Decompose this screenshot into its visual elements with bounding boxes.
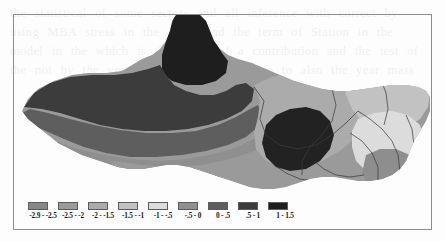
legend-label-row: -2.9 - -2.5 -2.5 - -2 -2 - -1.5 -1.5 - -… xyxy=(28,211,302,220)
region-northern-protrusion xyxy=(162,15,228,85)
legend-label-2: -2 - -1.5 xyxy=(88,211,117,220)
legend-label-5: -.5 - 0 xyxy=(178,211,207,220)
legend-label-4: -1 - -.5 xyxy=(148,211,177,220)
legend-swatch-5 xyxy=(178,202,198,210)
legend-label-7: .5 - 1 xyxy=(238,211,267,220)
map-canvas xyxy=(14,15,432,230)
legend-swatch-3 xyxy=(118,202,138,210)
legend-swatch-7 xyxy=(238,202,258,210)
legend-label-8: 1 - 1.5 xyxy=(269,211,302,220)
choropleth-map-svg xyxy=(14,15,432,230)
legend-swatch-6 xyxy=(208,202,228,210)
legend-label-6: 0 - .5 xyxy=(208,211,237,220)
legend-swatch-row xyxy=(28,202,302,210)
legend-swatch-8 xyxy=(268,202,288,210)
region-east-mid-tone xyxy=(362,149,418,195)
figure-frame: -2.9 - -2.5 -2.5 - -2 -2 - -1.5 -1.5 - -… xyxy=(13,14,432,230)
legend-swatch-2 xyxy=(88,202,108,210)
legend-label-3: -1.5 - -1 xyxy=(118,211,147,220)
legend-swatch-4 xyxy=(148,202,168,210)
legend-label-1: -2.5 - -2 xyxy=(58,211,87,220)
map-regions-group xyxy=(14,15,432,230)
legend-label-0: -2.9 - -2.5 xyxy=(28,211,57,220)
legend-swatch-0 xyxy=(28,202,48,210)
map-legend: -2.9 - -2.5 -2.5 - -2 -2 - -1.5 -1.5 - -… xyxy=(28,202,302,220)
legend-swatch-1 xyxy=(58,202,78,210)
